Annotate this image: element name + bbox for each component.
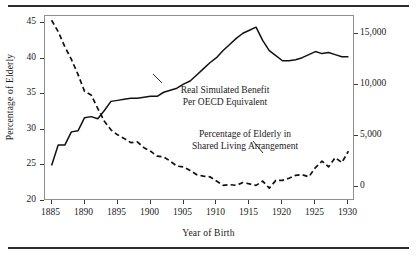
y-tick-right-5000: 5,000 (360, 129, 406, 139)
top-rule (8, 5, 409, 7)
annotation-benefit-line1: Real Simulated Benefit (140, 84, 310, 96)
annotation-shared-line1: Percentage of Elderly in (150, 128, 340, 140)
y-tick-right-0: 0 (360, 180, 406, 190)
annotation-shared-line2: Shared Living Arrangement (150, 140, 340, 152)
annotation-real-simulated-benefit: Real Simulated Benefit Per OECD Equivale… (140, 84, 310, 108)
series-layer (45, 16, 355, 201)
y-tick-left-30: 30 (6, 123, 36, 133)
figure-container: Percentage of Elderly Simulated Benefit … (0, 0, 417, 259)
x-axis-title: Year of Birth (0, 228, 417, 238)
y-tick-left-25: 25 (6, 158, 36, 168)
tick-mark-left-20 (40, 200, 44, 201)
y-tick-right-10000: 10,000 (360, 78, 406, 88)
y-tick-right-15000: 15,000 (360, 27, 406, 37)
annotation-shared-living: Percentage of Elderly in Shared Living A… (150, 128, 340, 152)
x-tick-1930: 1930 (327, 207, 367, 217)
leader-benefit (153, 74, 162, 83)
annotation-benefit-line2: Per OECD Equivalent (140, 96, 310, 108)
y-tick-left-40: 40 (6, 52, 36, 62)
bottom-rule (8, 247, 409, 249)
y-tick-left-45: 45 (6, 16, 36, 26)
y-tick-left-20: 20 (6, 194, 36, 204)
y-tick-left-35: 35 (6, 87, 36, 97)
